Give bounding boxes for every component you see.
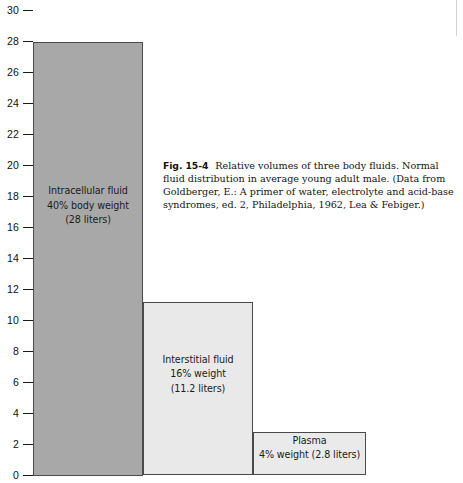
y-axis-tick-label: 30 [7, 5, 19, 16]
bar-label-line: (11.2 liters) [144, 382, 252, 397]
y-axis-tick-label: 16 [7, 222, 19, 233]
y-axis-tick-label: 24 [7, 98, 19, 109]
y-axis-tick-mark [23, 165, 33, 166]
y-axis-tick-mark [23, 134, 33, 135]
y-axis-tick-label: 14 [7, 253, 19, 264]
y-axis-tick-mark [23, 413, 33, 414]
y-axis-tick-mark [23, 196, 33, 197]
y-axis-tick-label: 28 [7, 36, 19, 47]
bar-label-line: Intracellular fluid [34, 184, 142, 199]
bar-label-line: Interstitial fluid [144, 353, 252, 368]
y-axis-tick-label: 18 [7, 191, 19, 202]
bar-label-line: 4% weight (2.8 liters) [254, 448, 365, 463]
bar-label: Interstitial fluid16% weight(11.2 liters… [144, 353, 252, 397]
y-axis-tick-mark [23, 103, 33, 104]
y-axis: 024681012141618202224262830 [0, 0, 33, 483]
page-edge-rule [456, 0, 457, 36]
y-axis-tick-label: 12 [7, 284, 19, 295]
y-axis-tick-mark [23, 475, 33, 476]
y-axis-tick-label: 6 [13, 377, 19, 388]
y-axis-tick-mark [23, 382, 33, 383]
bar-label-line: 16% weight [144, 367, 252, 382]
y-axis-tick-label: 10 [7, 315, 19, 326]
bar-label-line: (28 liters) [34, 213, 142, 228]
y-axis-tick-label: 26 [7, 67, 19, 78]
bar-plasma: Plasma4% weight (2.8 liters) [253, 432, 366, 475]
y-axis-tick-mark [23, 444, 33, 445]
y-axis-tick-label: 8 [13, 346, 19, 357]
bar-label: Plasma4% weight (2.8 liters) [254, 434, 365, 463]
y-axis-tick-mark [23, 72, 33, 73]
y-axis-tick-mark [23, 289, 33, 290]
figure-number: Fig. 15-4 [163, 160, 208, 171]
y-axis-tick-mark [23, 41, 33, 42]
bar-label: Intracellular fluid40% body weight(28 li… [34, 184, 142, 228]
y-axis-tick-label: 2 [13, 439, 19, 450]
y-axis-tick-label: 22 [7, 129, 19, 140]
bar-label-line: 40% body weight [34, 199, 142, 214]
bar-label-line: Plasma [254, 434, 365, 449]
y-axis-tick-mark [23, 320, 33, 321]
y-axis-tick-mark [23, 10, 33, 11]
bar-intracellular-fluid: Intracellular fluid40% body weight(28 li… [33, 42, 143, 476]
y-axis-tick-mark [23, 227, 33, 228]
bar-interstitial-fluid: Interstitial fluid16% weight(11.2 liters… [143, 302, 253, 476]
figure-15-4: 024681012141618202224262830 Intracellula… [0, 0, 463, 483]
figure-caption: Fig. 15-4Relative volumes of three body … [163, 159, 457, 211]
y-axis-tick-mark [23, 351, 33, 352]
y-axis-tick-label: 20 [7, 160, 19, 171]
y-axis-tick-label: 0 [13, 470, 19, 481]
y-axis-tick-label: 4 [13, 408, 19, 419]
y-axis-tick-mark [23, 258, 33, 259]
